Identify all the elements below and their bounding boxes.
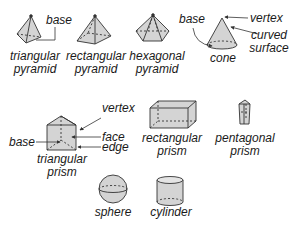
hexagonal-pyramid-shape (136, 14, 169, 41)
prism-vertex-label: vertex (102, 102, 135, 115)
prism-vertex-arrow (80, 118, 101, 130)
triangular-pyramid-shape (17, 15, 41, 43)
sphere-shape (99, 175, 127, 203)
cone-vertex-arrow (225, 17, 248, 18)
cylinder-caption: cylinder (146, 206, 196, 219)
rectangular-prism-caption: rectangular prism (140, 132, 204, 158)
pyramid-base-label: base (46, 14, 72, 27)
cone-vertex-label: vertex (250, 12, 283, 25)
hexagonal-pyramid-caption: hexagonal pyramid (126, 50, 188, 76)
rectangular-pyramid-shape (77, 15, 111, 44)
cylinder-shape (157, 177, 183, 206)
triangular-prism-shape (47, 116, 76, 150)
cone-shape (207, 18, 237, 49)
rectangular-pyramid-caption: rectangular pyramid (64, 50, 128, 76)
triangular-pyramid-caption: triangular pyramid (6, 50, 64, 76)
prism-edge-label: edge (102, 141, 129, 154)
triangular-prism-caption: triangular prism (33, 153, 91, 179)
cone-caption: cone (205, 52, 241, 65)
prism-base-label: base (9, 136, 35, 149)
cone-base-label: base (179, 13, 205, 26)
pentagonal-prism-shape (239, 100, 250, 124)
sphere-caption: sphere (90, 206, 136, 219)
rectangular-prism-shape (150, 101, 196, 128)
pentagonal-prism-caption: pentagonal prism (214, 132, 276, 158)
cone-curved-surface-label: curved surface (244, 29, 294, 55)
